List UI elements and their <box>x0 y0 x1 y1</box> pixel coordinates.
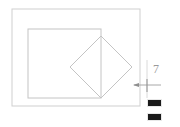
drawing-canvas[interactable]: 7 <box>0 0 180 127</box>
outer-rectangle[interactable] <box>12 9 140 106</box>
color-swatch-bottom[interactable] <box>147 113 162 121</box>
arrow-head-left-icon <box>133 83 139 87</box>
dimension-value-label: 7 <box>153 63 159 75</box>
color-swatch-top[interactable] <box>147 99 162 107</box>
